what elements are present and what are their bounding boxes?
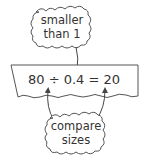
top-callout-line2: than 1 [43,27,80,41]
diagram-canvas: smaller than 1 80 ÷ 0.4 = 20 compare siz… [0,0,144,161]
top-callout-line1: smaller [41,13,84,27]
bottom-callout-line1: compare [51,119,101,133]
bottom-cloud-callout: compare sizes [45,112,105,154]
equation-text: 80 ÷ 0.4 = 20 [28,72,120,87]
equation-box: 80 ÷ 0.4 = 20 [11,65,138,98]
bottom-callout-line2: sizes [62,133,90,147]
top-cloud-callout: smaller than 1 [31,6,91,48]
